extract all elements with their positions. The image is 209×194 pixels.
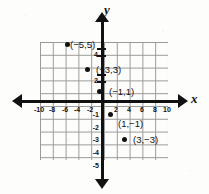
point-neg5-5-label: (−5,5) — [70, 40, 95, 50]
y-tick-label: -3 — [85, 136, 99, 143]
x-tick-label: 8 — [153, 106, 157, 113]
x-tick-label: -8 — [49, 106, 55, 113]
y-tick-label: 2 — [84, 77, 98, 84]
point-neg1-1-label: (−1,1) — [109, 87, 134, 97]
coordinate-plane-figure: x y -10-8-6-4-2246810 42-1-2-3-4-5 (−5,5… — [0, 0, 209, 194]
y-axis-tick-mark — [97, 55, 106, 57]
y-axis-tick-mark — [97, 81, 106, 83]
x-tick-label: 6 — [140, 106, 144, 113]
y-tick-label: -4 — [85, 149, 99, 156]
y-axis-down-arrow-icon — [95, 179, 109, 189]
y-tick-label: 4 — [84, 51, 98, 58]
point-1-neg1 — [108, 112, 113, 117]
x-tick-label: 4 — [127, 106, 131, 113]
x-axis-label: x — [191, 91, 198, 107]
x-tick-label: 10 — [163, 106, 171, 113]
y-axis-tick-mark — [97, 48, 106, 50]
x-tick-label: -10 — [34, 106, 44, 113]
point-neg1-1 — [97, 89, 102, 94]
x-tick-label: -6 — [62, 106, 68, 113]
y-tick-label: -1 — [85, 111, 99, 118]
y-axis-line — [101, 22, 104, 180]
y-axis-label: y — [104, 2, 110, 18]
point-neg3-3 — [85, 67, 90, 72]
point-neg5-5 — [65, 42, 70, 47]
y-tick-label: -5 — [85, 162, 99, 169]
x-tick-label: -4 — [74, 106, 80, 113]
point-3-neg3-label: (3,−3) — [133, 135, 158, 145]
x-axis-left-arrow-icon — [12, 94, 22, 108]
point-3-neg3 — [122, 137, 127, 142]
x-tick-label: 2 — [114, 106, 118, 113]
point-1-neg1-label: (1,−1) — [118, 119, 143, 129]
y-tick-label: -2 — [85, 124, 99, 131]
x-axis-right-arrow-icon — [178, 94, 188, 108]
point-neg3-3-label: (−3,3) — [96, 65, 121, 75]
